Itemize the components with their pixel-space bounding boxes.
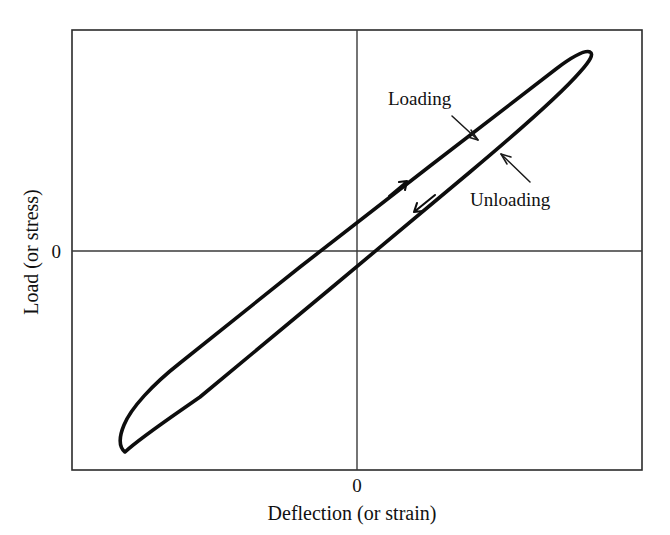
unloading-annotation-label: Unloading — [470, 189, 551, 210]
loading-annotation-label: Loading — [388, 88, 452, 109]
hysteresis-figure: Loading Unloading 0 0 Load (or stress) D… — [0, 0, 670, 535]
x-axis-zero-tick-label: 0 — [352, 475, 362, 496]
hysteresis-loop-curve — [120, 52, 591, 452]
y-axis-title: Load (or stress) — [20, 189, 43, 315]
y-axis-zero-tick-label: 0 — [52, 241, 62, 262]
x-axis-title: Deflection (or strain) — [268, 502, 437, 525]
loading-leader-line — [452, 116, 478, 140]
loading-direction-arrowhead — [389, 181, 407, 196]
chart-canvas: Loading Unloading 0 0 Load (or stress) D… — [0, 0, 670, 535]
unloading-leader-line — [501, 154, 530, 182]
